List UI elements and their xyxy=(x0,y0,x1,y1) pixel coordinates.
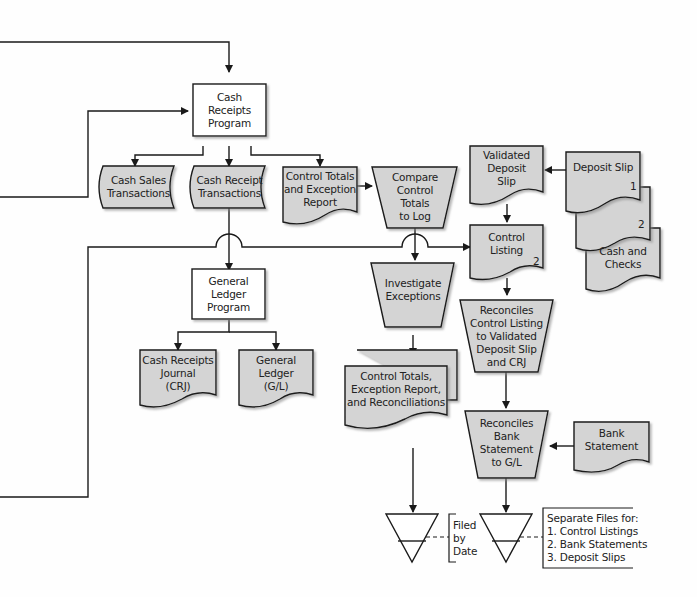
control-totals-report-label: Control Totals and Exception Report xyxy=(283,167,357,211)
flowchart-canvas: Cash Receipts Program Cash Sales Transac… xyxy=(0,0,697,597)
edge-offpage-to-crp xyxy=(0,42,229,72)
bank-statement-label: Bank Statement xyxy=(574,424,649,456)
separate-files-note: Separate Files for: 1. Control Listings … xyxy=(547,510,697,566)
compare-control-totals-label: Compare Control Totals to Log xyxy=(380,168,450,226)
filed-by-date-note: Filed by Date xyxy=(453,514,493,562)
deposit-slip-copy-number: 1 xyxy=(630,180,637,192)
general-ledger-program-label: General Ledger Program xyxy=(192,269,265,319)
cash-receipts-journal-label: Cash Receipts Journal (CRJ) xyxy=(140,352,216,394)
investigate-exceptions-label: Investigate Exceptions xyxy=(378,270,448,310)
deposit-slip-label: Deposit Slip xyxy=(566,155,640,179)
flowchart-graphics xyxy=(0,0,697,597)
reconciles-control-listing-label: Reconciles Control Listing to Validated … xyxy=(460,302,553,370)
control-listing-copy-number: 2 xyxy=(533,255,540,267)
general-ledger-label: General Ledger (G/L) xyxy=(239,352,313,394)
deposit-slip-copy2-number: 2 xyxy=(638,218,645,230)
cash-receipt-transactions-label: Cash Receipt Transactions xyxy=(188,166,271,208)
control-totals-reconciliations-label: Control Totals, Exception Report, and Re… xyxy=(343,368,449,410)
file-by-date-triangle xyxy=(386,514,438,562)
cash-sales-transactions-label: Cash Sales Transactions xyxy=(97,166,180,208)
reconciles-bank-statement-label: Reconciles Bank Statement to G/L xyxy=(465,413,548,473)
cash-and-checks-label: Cash and Checks xyxy=(586,243,660,273)
validated-deposit-slip-label: Validated Deposit Slip xyxy=(470,146,543,190)
cash-receipts-program-label: Cash Receipts Program xyxy=(193,84,266,136)
